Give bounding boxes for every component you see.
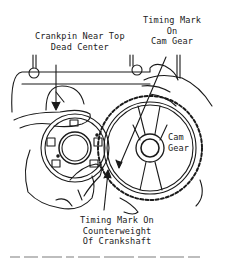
timing-gear-figure: Crankpin Near Top Dead Center Timing Mar… bbox=[0, 0, 229, 258]
cam-timing-mark-label: Timing Mark On Cam Gear bbox=[143, 15, 201, 47]
figure-caption-illegible bbox=[10, 247, 220, 253]
cam-timing-mark-line-1: Timing Mark bbox=[143, 15, 201, 26]
crankpin-label-line-2: Dead Center bbox=[35, 42, 125, 53]
cam-gear-label-line-1: Cam bbox=[168, 132, 189, 143]
cam-gear-label-line-2: Gear bbox=[168, 143, 189, 154]
cam-gear-label: Cam Gear bbox=[168, 132, 189, 153]
crankpin-label-line-1: Crankpin Near Top bbox=[35, 31, 125, 42]
crank-timing-mark-line-3: Of Crankshaft bbox=[80, 236, 154, 247]
crank-timing-mark-line-2: Counterweight bbox=[80, 226, 154, 237]
crankpin-label: Crankpin Near Top Dead Center bbox=[35, 31, 125, 52]
crank-timing-mark-line-1: Timing Mark On bbox=[80, 215, 154, 226]
cam-timing-mark-line-2: On bbox=[143, 26, 201, 37]
cam-timing-mark-line-3: Cam Gear bbox=[143, 36, 201, 47]
crank-timing-mark-label: Timing Mark On Counterweight Of Cranksha… bbox=[80, 215, 154, 247]
